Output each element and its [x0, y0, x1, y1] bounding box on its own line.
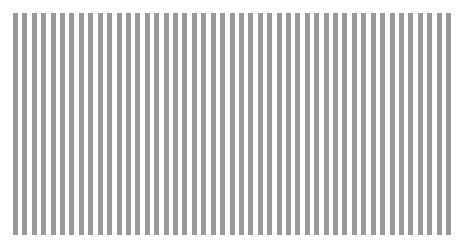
bar	[107, 13, 112, 235]
bar	[88, 13, 93, 235]
bar	[239, 13, 244, 235]
bar	[22, 13, 27, 235]
bar	[211, 13, 216, 235]
bar	[60, 13, 65, 235]
bar	[258, 13, 263, 235]
bar	[380, 13, 385, 235]
bar	[277, 13, 282, 235]
plot-area	[13, 13, 451, 235]
bar	[446, 13, 451, 235]
bar	[305, 13, 310, 235]
bar	[352, 13, 357, 235]
bar	[220, 13, 225, 235]
bar	[135, 13, 140, 235]
bar	[324, 13, 329, 235]
bar	[361, 13, 366, 235]
bar	[201, 13, 206, 235]
bar	[117, 13, 122, 235]
bar	[418, 13, 423, 235]
bar	[286, 13, 291, 235]
bar	[267, 13, 272, 235]
bar	[342, 13, 347, 235]
bar	[333, 13, 338, 235]
bar	[371, 13, 376, 235]
bar	[154, 13, 159, 235]
bar	[427, 13, 432, 235]
bar	[192, 13, 197, 235]
bar	[145, 13, 150, 235]
bar	[248, 13, 253, 235]
bar	[98, 13, 103, 235]
bar	[173, 13, 178, 235]
bar	[41, 13, 46, 235]
bar	[390, 13, 395, 235]
bar	[79, 13, 84, 235]
bar	[314, 13, 319, 235]
bar	[51, 13, 56, 235]
bar	[230, 13, 235, 235]
bar	[182, 13, 187, 235]
bar	[164, 13, 169, 235]
bar	[437, 13, 442, 235]
bar	[399, 13, 404, 235]
bar	[13, 13, 18, 235]
bar	[69, 13, 74, 235]
bar	[126, 13, 131, 235]
bar	[32, 13, 37, 235]
bar	[408, 13, 413, 235]
bar	[295, 13, 300, 235]
